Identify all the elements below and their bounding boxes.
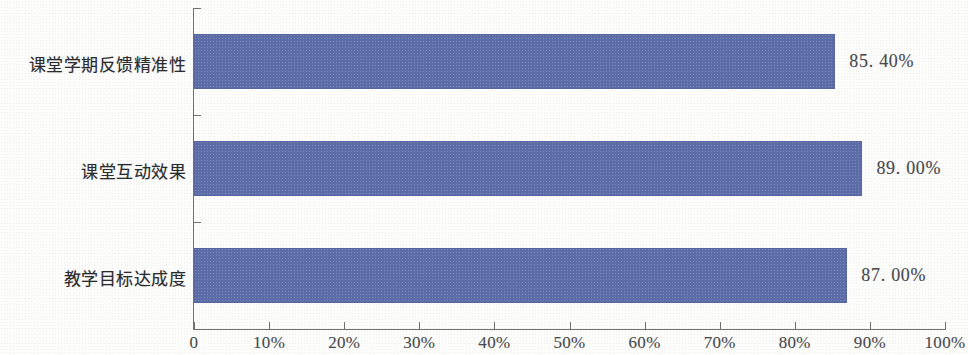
x-axis-tick xyxy=(645,322,646,329)
bar xyxy=(194,248,847,303)
bar-chart-figure: 010%20%30%40%50%60%70%80%90%100% 课堂学期反馈精… xyxy=(0,0,968,355)
x-axis-tick-label: 10% xyxy=(253,333,285,353)
category-label: 教学目标达成度 xyxy=(64,265,187,290)
value-label: 89. 00% xyxy=(876,158,941,179)
x-axis-tick-label: 30% xyxy=(403,333,435,353)
x-axis-tick-label: 100% xyxy=(925,333,966,353)
x-axis-tick-label: 20% xyxy=(328,333,360,353)
category-label: 课堂互动效果 xyxy=(81,158,186,183)
x-axis-tick-label: 70% xyxy=(704,333,736,353)
y-axis-tick xyxy=(194,8,201,9)
value-label: 87. 00% xyxy=(861,265,926,286)
x-axis-tick xyxy=(194,322,195,330)
bar xyxy=(194,34,835,89)
value-label: 85. 40% xyxy=(849,51,914,72)
x-axis-tick xyxy=(720,322,721,329)
x-axis-tick xyxy=(870,322,871,329)
x-axis-tick xyxy=(945,322,946,330)
bar xyxy=(194,141,862,196)
y-axis-tick xyxy=(194,115,201,116)
x-axis-tick xyxy=(269,322,270,329)
x-axis-tick-label: 0 xyxy=(190,333,199,353)
x-axis-tick-label: 40% xyxy=(478,333,510,353)
x-axis-tick xyxy=(344,322,345,329)
x-axis-tick xyxy=(795,322,796,329)
x-axis-line xyxy=(193,329,946,330)
y-axis-tick xyxy=(194,222,201,223)
category-label: 课堂学期反馈精准性 xyxy=(29,51,187,76)
x-axis-tick xyxy=(419,322,420,329)
x-axis-tick-label: 90% xyxy=(854,333,886,353)
x-axis-tick-label: 60% xyxy=(629,333,661,353)
x-axis-tick-label: 50% xyxy=(553,333,585,353)
x-axis-tick xyxy=(570,322,571,329)
x-axis-tick xyxy=(494,322,495,329)
x-axis-tick-label: 80% xyxy=(779,333,811,353)
y-axis-tick xyxy=(194,329,201,330)
